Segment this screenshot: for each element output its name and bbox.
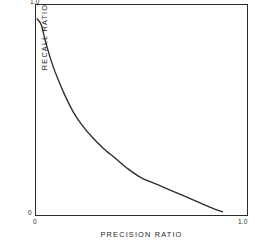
y-axis-title: RECALL RATIO [40, 4, 49, 70]
x-axis-title: PRECISION RATIO [35, 230, 248, 239]
y-axis-min-tick-label: 0 [28, 210, 32, 217]
precision-recall-figure: 1.0 0 0 1.0 PRECISION RATIO RECALL RATIO [0, 0, 255, 244]
x-axis-max-tick-label: 1.0 [238, 219, 248, 226]
y-axis-title-wrapper: RECALL RATIO [37, 0, 51, 117]
precision-recall-curve [37, 19, 222, 212]
x-axis-min-tick-label: 0 [33, 219, 37, 226]
